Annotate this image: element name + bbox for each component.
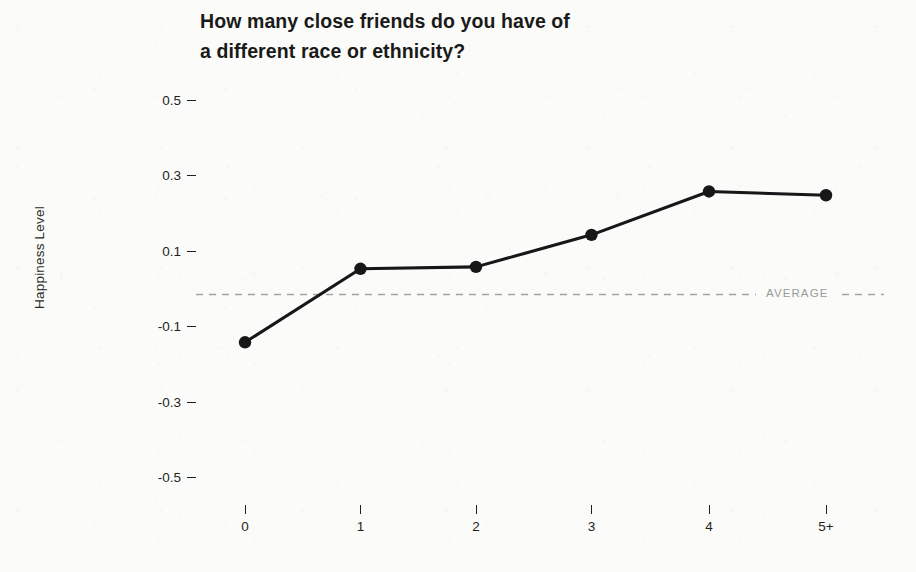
data-point-marker: [354, 263, 366, 275]
data-point-group: [239, 185, 832, 348]
data-point-marker: [820, 189, 832, 201]
chart-figure: How many close friends do you have of a …: [0, 0, 916, 572]
data-point-marker: [585, 229, 597, 241]
data-line: [245, 191, 826, 342]
data-point-marker: [703, 185, 715, 197]
data-point-marker: [470, 261, 482, 273]
data-point-marker: [239, 336, 251, 348]
average-line-label: AVERAGE: [766, 287, 828, 299]
